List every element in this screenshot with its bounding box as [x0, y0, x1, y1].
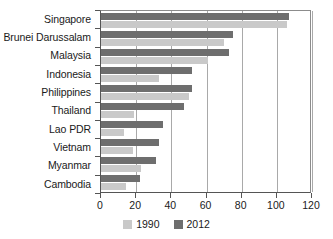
- bar-1990: [101, 165, 141, 172]
- x-axis-tick-label: 120: [302, 198, 320, 212]
- bar-2012: [101, 103, 184, 110]
- y-axis-label-philippines: Philippines: [0, 83, 96, 101]
- bar-1990: [101, 183, 126, 190]
- legend-swatch-1990-icon: [123, 220, 132, 229]
- bar-group: [101, 120, 310, 138]
- bar-group: [101, 11, 310, 29]
- bar-2012: [101, 139, 159, 146]
- bar-chart: Singapore Brunei Darussalam Malaysia Ind…: [0, 0, 333, 239]
- plot-area: [100, 10, 311, 193]
- bar-series-container: [101, 11, 310, 192]
- bar-1990: [101, 57, 208, 64]
- x-axis-tick-label: 20: [129, 198, 141, 212]
- x-axis-tick-label: 100: [267, 198, 285, 212]
- bar-1990: [101, 111, 134, 118]
- bar-group: [101, 138, 310, 156]
- bar-2012: [101, 175, 140, 182]
- bar-group: [101, 47, 310, 65]
- bar-2012: [101, 121, 163, 128]
- bar-2012: [101, 157, 156, 164]
- bar-2012: [101, 49, 229, 56]
- y-axis-label-brunei-darussalam: Brunei Darussalam: [0, 28, 96, 46]
- y-axis-label-myanmar: Myanmar: [0, 156, 96, 174]
- y-axis-label-vietnam: Vietnam: [0, 138, 96, 156]
- legend-label-2012: 2012: [187, 219, 210, 230]
- y-axis-label-thailand: Thailand: [0, 101, 96, 119]
- y-axis-label-cambodia: Cambodia: [0, 175, 96, 193]
- y-axis-label-malaysia: Malaysia: [0, 47, 96, 65]
- legend-swatch-2012-icon: [174, 220, 183, 229]
- legend-item-1990: 1990: [123, 219, 159, 230]
- x-axis-tick-label: 0: [97, 198, 103, 212]
- bar-2012: [101, 31, 233, 38]
- bar-1990: [101, 21, 287, 28]
- bar-1990: [101, 147, 133, 154]
- y-axis-label-singapore: Singapore: [0, 10, 96, 28]
- x-axis-tick-label: 80: [235, 198, 247, 212]
- y-axis-category-labels: Singapore Brunei Darussalam Malaysia Ind…: [0, 10, 96, 193]
- bar-1990: [101, 129, 124, 136]
- legend-label-1990: 1990: [136, 219, 159, 230]
- x-axis-tick-label: 60: [200, 198, 212, 212]
- bar-group: [101, 65, 310, 83]
- bar-group: [101, 83, 310, 101]
- bar-group: [101, 29, 310, 47]
- bar-1990: [101, 39, 224, 46]
- gridline: [312, 11, 313, 192]
- legend-item-2012: 2012: [174, 219, 210, 230]
- bar-2012: [101, 85, 192, 92]
- y-axis-label-lao-pdr: Lao PDR: [0, 120, 96, 138]
- x-axis-tick-labels: 020406080100120: [100, 198, 311, 212]
- bar-group: [101, 174, 310, 192]
- bar-2012: [101, 67, 192, 74]
- chart-legend: 1990 2012: [0, 219, 333, 230]
- bar-group: [101, 101, 310, 119]
- x-axis-tick-label: 40: [164, 198, 176, 212]
- bar-2012: [101, 13, 289, 20]
- bar-1990: [101, 93, 189, 100]
- bar-1990: [101, 75, 159, 82]
- y-axis-label-indonesia: Indonesia: [0, 65, 96, 83]
- bar-group: [101, 156, 310, 174]
